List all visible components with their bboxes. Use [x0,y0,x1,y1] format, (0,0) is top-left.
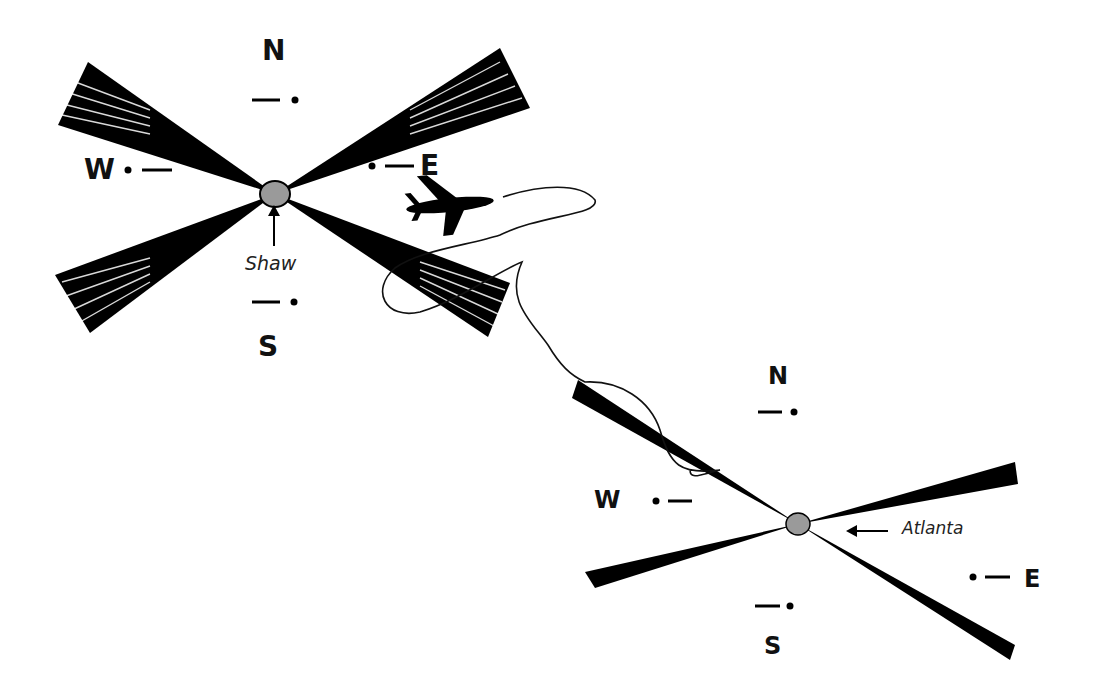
atlanta-east-label: E [1024,565,1040,593]
shaw-south-label: S [258,330,278,363]
atlanta-beam-sw [585,524,798,588]
atlanta-south-label: S [764,632,781,660]
atlanta-north-label: N [768,362,788,390]
shaw-beam-sw [55,194,275,333]
shaw-north-label: N [262,34,285,67]
shaw-station-label: Shaw [245,252,296,274]
atlanta-beam-se [798,524,1015,660]
atlanta-arrow-icon [846,525,857,537]
shaw-beam-ne [275,48,530,194]
shaw-east-label: E [420,149,439,182]
atlanta-station-marker [786,513,810,535]
shaw-beams [55,48,530,337]
atlanta-station-label: Atlanta [902,518,963,538]
flight-path [383,187,720,476]
shaw-station-marker [260,181,290,207]
atlanta-west-label: W [594,486,620,514]
radio-range-diagram [0,0,1095,700]
airplane-icon [403,169,497,240]
atlanta-beam-ne [798,462,1018,524]
shaw-west-label: W [84,153,115,186]
